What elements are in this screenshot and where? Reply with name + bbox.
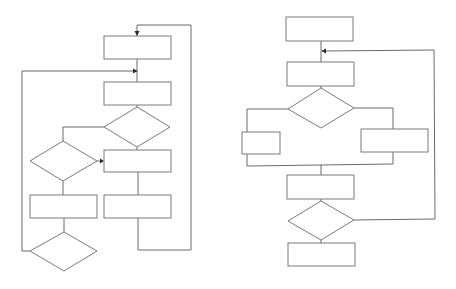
left-flowchart	[22, 25, 191, 271]
connector-r3-r4	[247, 109, 288, 132]
process-box-l1	[104, 36, 171, 59]
process-box-l2	[104, 82, 171, 105]
arrowhead-left-icon	[322, 49, 327, 54]
decision-diamond-l3	[104, 107, 170, 147]
decision-diamond-r3	[288, 88, 354, 128]
diagram-canvas	[0, 0, 456, 289]
decision-diamond-l8	[30, 232, 97, 271]
connector-l3-l4	[63, 127, 104, 141]
process-box-r8	[288, 243, 355, 266]
process-box-r5	[361, 129, 428, 152]
process-box-r4	[242, 132, 280, 154]
decision-diamond-l4	[30, 141, 97, 181]
process-box-l7	[104, 195, 171, 218]
connector-r3-r5	[354, 108, 393, 129]
arrowhead-down-icon	[135, 31, 140, 36]
decision-diamond-r7	[288, 201, 354, 240]
process-box-r2	[287, 62, 354, 86]
process-box-r6	[287, 175, 354, 199]
process-box-l5	[104, 150, 171, 172]
process-box-r1	[286, 17, 353, 41]
right-flowchart	[242, 17, 435, 266]
arrowhead-right-icon	[100, 159, 104, 164]
process-box-l6	[30, 195, 97, 218]
